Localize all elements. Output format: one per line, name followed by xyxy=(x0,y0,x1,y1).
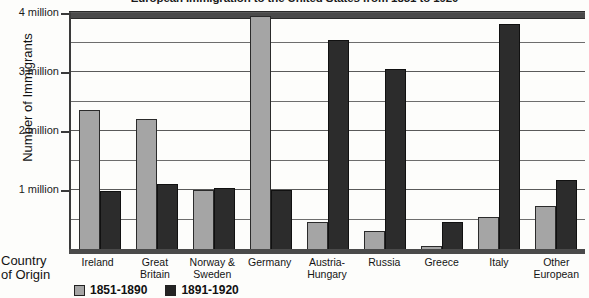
y-axis-tick-label-wrap: 1 million xyxy=(0,183,59,197)
chart-page: European Immigration to the United State… xyxy=(0,0,589,298)
legend-swatch xyxy=(74,285,85,296)
bar xyxy=(157,184,178,249)
category-label-line: Russia xyxy=(356,257,413,269)
y-axis-tick-label: 1 million xyxy=(1,183,59,195)
category-labels: IrelandGreatBritainNorway &SwedenGermany… xyxy=(69,256,585,286)
plot-area xyxy=(69,13,585,249)
category-label: Russia xyxy=(356,256,413,286)
bar-group xyxy=(471,13,528,249)
y-axis-tick-label: 4 million xyxy=(1,6,59,18)
legend-item: 1851-1890 xyxy=(74,283,147,297)
bar xyxy=(271,190,292,249)
category-label: Ireland xyxy=(69,256,126,286)
y-axis-tick xyxy=(61,131,69,133)
x-axis-title: Country of Origin xyxy=(1,254,67,281)
legend-swatch xyxy=(165,285,176,296)
category-label-line: Germany xyxy=(241,257,298,269)
bar xyxy=(364,231,385,249)
x-axis-title-line-2: of Origin xyxy=(1,268,67,282)
category-label: Italy xyxy=(470,256,527,286)
bar xyxy=(478,217,499,249)
x-axis-line xyxy=(69,249,585,254)
legend-item: 1891-1920 xyxy=(165,283,238,297)
y-axis-tick xyxy=(61,72,69,74)
chart-title: European Immigration to the United State… xyxy=(0,0,589,4)
category-label-line: Ireland xyxy=(69,257,126,269)
legend-label: 1851-1890 xyxy=(90,283,147,297)
bar xyxy=(307,222,328,249)
bar-group xyxy=(185,13,242,249)
category-label: GreatBritain xyxy=(126,256,183,286)
bar-group xyxy=(242,13,299,249)
category-label-line: Greece xyxy=(413,257,470,269)
bar xyxy=(79,110,100,249)
category-label: Norway &Sweden xyxy=(184,256,241,286)
bar-group xyxy=(414,13,471,249)
bar xyxy=(535,206,556,249)
bar xyxy=(193,190,214,249)
bar-group xyxy=(357,13,414,249)
category-label-line: Austria- xyxy=(298,257,355,269)
bar xyxy=(250,16,271,249)
y-axis-title: Number of Immigrants xyxy=(20,18,35,178)
bar-group xyxy=(128,13,185,249)
bar xyxy=(556,180,577,249)
category-label-line: Britain xyxy=(126,269,183,281)
bar xyxy=(442,222,463,249)
category-label: Greece xyxy=(413,256,470,286)
bar xyxy=(136,119,157,249)
legend-label: 1891-1920 xyxy=(181,283,238,297)
bar-groups xyxy=(71,13,585,249)
category-label-line: Italy xyxy=(470,257,527,269)
bar xyxy=(385,69,406,249)
category-label: Germany xyxy=(241,256,298,286)
category-label-line: Sweden xyxy=(184,269,241,281)
bar xyxy=(499,24,520,249)
category-label-line: Other xyxy=(528,257,585,269)
y-axis-tick xyxy=(61,13,69,15)
category-label-line: Hungary xyxy=(298,269,355,281)
bar xyxy=(214,188,235,249)
category-label-line: Norway & xyxy=(184,257,241,269)
category-label-line: Great xyxy=(126,257,183,269)
bar xyxy=(328,40,349,249)
bar-group xyxy=(299,13,356,249)
y-axis-tick xyxy=(61,190,69,192)
category-label: OtherEuropean xyxy=(528,256,585,286)
bar xyxy=(100,191,121,249)
x-axis-title-line-1: Country xyxy=(1,254,67,268)
bar-group xyxy=(71,13,128,249)
bar-group xyxy=(528,13,585,249)
category-label-line: European xyxy=(528,269,585,281)
category-label: Austria-Hungary xyxy=(298,256,355,286)
legend: 1851-18901891-1920 xyxy=(74,283,239,297)
